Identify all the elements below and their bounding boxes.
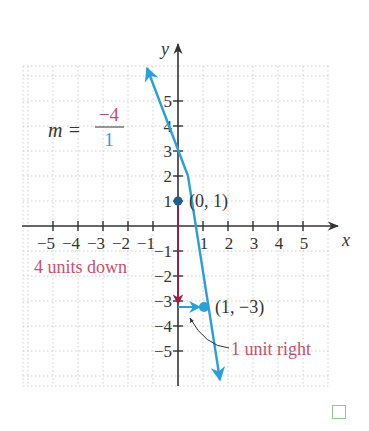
point-0-1 — [174, 197, 183, 206]
checkbox[interactable] — [332, 405, 346, 419]
x-tick-label: 5 — [300, 234, 309, 253]
x-tick-label: 3 — [250, 234, 259, 253]
y-tick-label: −2 — [154, 267, 172, 286]
x-tick-label: −5 — [37, 234, 55, 253]
y-axis-label: y — [159, 39, 169, 59]
point-label-b: (1, −3) — [215, 297, 264, 318]
point-label-a: (0, 1) — [189, 191, 228, 212]
x-tick-labels: −5 −4 −3 −2 −1 1 2 3 4 5 — [37, 234, 308, 253]
slope-numerator: −4 — [99, 104, 120, 125]
point-1-neg3 — [199, 302, 209, 312]
x-tick-label: −4 — [62, 234, 81, 253]
x-axis-label: x — [341, 230, 350, 250]
y-tick-label: −5 — [154, 342, 172, 361]
slope-label: m = — [48, 119, 81, 141]
y-tick-label: −4 — [154, 317, 173, 336]
down-note: 4 units down — [34, 257, 127, 277]
y-tick-label: −1 — [154, 242, 172, 261]
right-note: 1 unit right — [231, 339, 311, 359]
slope-denominator: 1 — [104, 129, 114, 150]
y-tick-label: 1 — [164, 192, 173, 211]
x-tick-label: −1 — [137, 234, 155, 253]
x-tick-label: −3 — [87, 234, 105, 253]
y-tick-label: 3 — [164, 142, 173, 161]
x-tick-label: 4 — [275, 234, 284, 253]
y-tick-label: 2 — [164, 167, 173, 186]
x-tick-label: −2 — [112, 234, 130, 253]
x-tick-label: 1 — [200, 234, 209, 253]
y-tick-label: 5 — [164, 92, 173, 111]
x-tick-label: 2 — [225, 234, 234, 253]
y-tick-label: −3 — [154, 292, 172, 311]
coordinate-plane: −5 −4 −3 −2 −1 1 2 3 4 5 1 2 3 4 5 −1 −2… — [0, 0, 369, 431]
right-note-pointer — [190, 318, 229, 348]
